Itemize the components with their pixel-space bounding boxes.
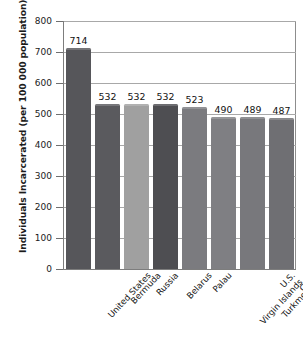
y-tick-mark [56, 176, 63, 177]
y-tick-label: 500 [24, 110, 52, 119]
y-tick-mark [56, 21, 63, 22]
bar [182, 107, 207, 269]
y-tick-label: 0 [24, 265, 52, 274]
x-axis-label: Belarus [185, 271, 214, 301]
bars-layer: 714532532532523490489487 [64, 21, 296, 269]
x-axis-label-line: Palau [211, 271, 234, 294]
x-axis-line [64, 269, 296, 270]
bar [153, 104, 178, 269]
bar-chart: Individuals Incarcerated (per 100 000 po… [0, 0, 303, 356]
y-tick-mark [56, 238, 63, 239]
bar [66, 48, 91, 269]
x-axis-label-line: Belarus [185, 271, 214, 301]
bar [240, 117, 265, 269]
y-tick-mark [56, 52, 63, 53]
y-tick-label: 800 [24, 17, 52, 26]
y-tick-label: 700 [24, 48, 52, 57]
bar [95, 104, 120, 269]
y-tick-label: 200 [24, 203, 52, 212]
y-tick-mark [56, 83, 63, 84]
y-tick-label: 100 [24, 234, 52, 243]
y-tick-mark [56, 114, 63, 115]
y-tick-label: 400 [24, 141, 52, 150]
bar [269, 118, 294, 269]
y-tick-mark [56, 207, 63, 208]
bar-value-label: 487 [263, 106, 300, 116]
bar [124, 104, 149, 269]
y-tick-mark [56, 269, 63, 270]
y-tick-mark [56, 145, 63, 146]
bar [211, 117, 236, 269]
y-tick-label: 300 [24, 172, 52, 181]
x-axis-label: Palau [211, 271, 234, 294]
y-tick-label: 600 [24, 79, 52, 88]
x-axis-labels: United StatesBermudaRussiaBelarusPalauU.… [64, 271, 303, 356]
bar-value-label: 714 [60, 36, 97, 46]
bar-value-label: 523 [176, 95, 213, 105]
